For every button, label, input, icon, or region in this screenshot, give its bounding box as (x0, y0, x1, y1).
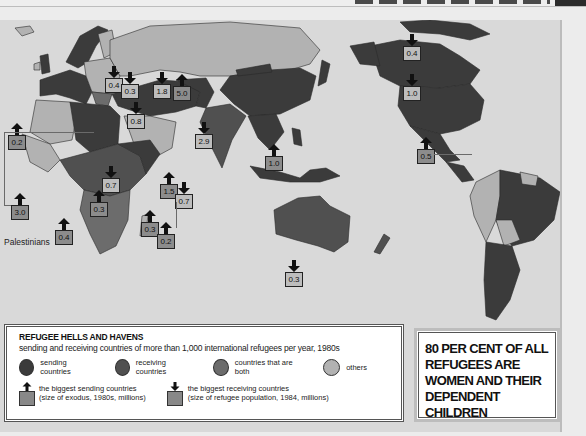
marker-pakistan: 2.9 (196, 122, 212, 149)
guianas (520, 172, 538, 186)
marker-mozambique: 0.2 (158, 222, 174, 249)
north-africa-west (30, 100, 76, 144)
marker-saudi-arabia: 0.8 (128, 102, 144, 129)
legend-label: sending countries (40, 358, 92, 376)
marker-canada: 0.4 (404, 34, 420, 61)
arrow-down-icon (169, 382, 181, 391)
arrow-up-icon (21, 382, 33, 391)
marker-value: 0.7 (102, 178, 120, 193)
marker-value: 0.4 (55, 230, 73, 245)
iceland (15, 26, 34, 36)
arrow-up-icon (419, 137, 433, 149)
marker-value: 3.0 (11, 205, 29, 220)
arrow-up-icon (162, 172, 176, 184)
sending-marker-icon (19, 382, 34, 406)
legend-item-sending: sending countries (19, 358, 93, 376)
marker-value: 1.0 (265, 156, 283, 171)
marker-value: 5.0 (173, 86, 191, 101)
arrow-down-icon (405, 34, 419, 46)
arrow-down-icon (129, 102, 143, 114)
arrow-down-icon (107, 66, 121, 78)
legend-text-line: (size of exodus, 1980s, millions) (39, 393, 146, 402)
marker-value: 0.2 (157, 234, 175, 249)
arrow-down-icon (405, 74, 419, 86)
marker-value: 0.3 (121, 84, 139, 99)
leader-line (176, 202, 177, 228)
arrow-up-icon (175, 74, 189, 86)
argentina-chile (484, 242, 520, 320)
marker-value: 0.7 (175, 194, 193, 209)
legend-biggest-receiving-text: the biggest receiving countries (size of… (188, 384, 329, 402)
swatch-sending (19, 359, 34, 376)
balkans (92, 92, 112, 106)
marker-value: 1.8 (153, 84, 171, 99)
cropped-header-text (355, 0, 550, 4)
legend-label: others (346, 363, 367, 372)
arrow-down-icon (155, 72, 169, 84)
swatch-others (323, 359, 340, 376)
legend-text-line: the biggest receiving countries (188, 384, 329, 393)
legend-biggest: the biggest sending countries (size of e… (19, 382, 389, 406)
ussr (110, 22, 320, 76)
leader-line (4, 132, 94, 133)
united-kingdom (40, 54, 50, 74)
arrow-down-icon (177, 182, 191, 194)
legend-item-others: others (323, 359, 367, 376)
central-america (446, 162, 474, 182)
canada (370, 40, 480, 88)
legend-label: countries that are both (235, 358, 301, 376)
indonesia (250, 166, 340, 182)
marker-australia: 0.3 (286, 260, 302, 287)
legend-text-line: the biggest sending countries (39, 384, 146, 393)
philippines (292, 128, 302, 146)
marker-vietnam: 1.0 (266, 144, 282, 171)
swatch-receiving (115, 359, 130, 376)
colombia-ecuador-peru (470, 170, 500, 242)
arrow-down-icon (287, 260, 301, 272)
marker-uganda: 0.3 (142, 210, 158, 237)
western-europe (40, 70, 92, 104)
marker-turkey: 0.3 (122, 72, 138, 99)
legend-text-line: (size of refugee population, 1984, milli… (188, 393, 329, 402)
marker-iran: 1.8 (154, 72, 170, 99)
ireland (34, 62, 40, 70)
arrow-up-icon (10, 123, 24, 135)
marker-value: 0.3 (90, 202, 108, 217)
australia (274, 196, 350, 252)
new-zealand (374, 234, 390, 254)
callout-box: 80 PER CENT OF ALL REFUGEES ARE WOMEN AN… (414, 328, 560, 422)
square-icon (19, 391, 35, 406)
marker-afghanistan: 5.0 (174, 74, 190, 101)
legend-categories: sending countries receiving countries co… (19, 358, 389, 376)
marker-palestinians: 3.0 (12, 193, 28, 220)
marker-value: 0.8 (127, 114, 145, 129)
marker-value: 0.3 (285, 272, 303, 287)
arrow-down-icon (123, 72, 137, 84)
arrow-down-icon (104, 166, 118, 178)
arrow-up-icon (267, 144, 281, 156)
marker-western-sahara: 0.2 (9, 123, 25, 150)
cropped-header-block (555, 0, 586, 6)
marker-somalia: 0.7 (176, 182, 192, 209)
north-africa-east (70, 102, 120, 152)
legend-biggest-sending: the biggest sending countries (size of e… (19, 382, 146, 406)
legend-biggest-sending-text: the biggest sending countries (size of e… (39, 384, 146, 402)
arrow-up-icon (13, 193, 27, 205)
legend-label: receiving countries (136, 358, 192, 376)
legend-title: REFUGEE HELLS AND HAVENS (19, 332, 389, 342)
legend-item-both: countries that are both (213, 358, 301, 376)
marker-central-america: 0.5 (418, 137, 434, 164)
arrow-down-icon (197, 122, 211, 134)
marker-angola: 0.4 (56, 218, 72, 245)
swatch-both (213, 359, 228, 376)
square-icon (167, 391, 183, 406)
callout-text: 80 PER CENT OF ALL REFUGEES ARE WOMEN AN… (425, 341, 549, 421)
marker-germany: 0.4 (106, 66, 122, 93)
marker-value: 2.9 (195, 134, 213, 149)
arrow-up-icon (57, 218, 71, 230)
marker-zaire: 0.3 (91, 190, 107, 217)
marker-value: 0.5 (417, 149, 435, 164)
legend: REFUGEE HELLS AND HAVENS sending and rec… (4, 324, 404, 422)
legend-biggest-receiving: the biggest receiving countries (size of… (168, 382, 329, 406)
legend-item-receiving: receiving countries (115, 358, 192, 376)
